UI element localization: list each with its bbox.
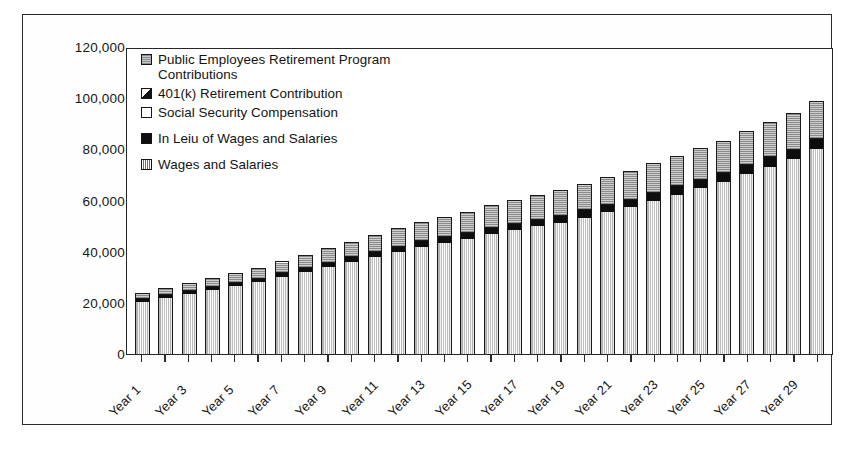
stacked-bar[interactable]: [763, 122, 778, 354]
x-axis-tick-label: Year 17: [479, 377, 521, 419]
stacked-bar[interactable]: [182, 283, 197, 354]
x-axis-tick: [293, 355, 316, 364]
y-axis-tick-label: 60,000: [47, 195, 125, 209]
bar-segment: [671, 195, 684, 354]
stacked-bar[interactable]: [414, 222, 429, 354]
bar-segment: [485, 206, 498, 227]
x-axis-tick-mark: [584, 355, 585, 362]
stacked-bar[interactable]: [716, 141, 731, 355]
bar-column[interactable]: [642, 49, 665, 354]
stacked-bar[interactable]: [600, 177, 615, 354]
y-axis-tick-label: 100,000: [47, 92, 125, 106]
bar-segment: [159, 298, 172, 354]
x-axis-tick-mark: [141, 355, 142, 362]
legend-item[interactable]: Wages and Salaries: [141, 157, 471, 172]
stacked-bar[interactable]: [646, 163, 661, 354]
bar-segment: [764, 123, 777, 157]
k401-diagonal-swatch: [141, 88, 152, 99]
bar-segment: [392, 229, 405, 246]
bar-column[interactable]: [526, 49, 549, 354]
bar-column[interactable]: [689, 49, 712, 354]
stacked-bar[interactable]: [809, 101, 824, 354]
legend-item[interactable]: Social Security Compensation: [141, 105, 471, 120]
stacked-bar[interactable]: [786, 113, 801, 354]
bar-segment: [810, 149, 823, 354]
y-axis-tick-label: 20,000: [47, 297, 125, 311]
bar-segment: [345, 243, 358, 258]
x-axis-tick-label: Year 13: [386, 377, 428, 419]
bar-column[interactable]: [665, 49, 688, 354]
stacked-bar[interactable]: [739, 131, 754, 354]
stacked-bar[interactable]: [368, 235, 383, 354]
x-axis-tick-mark: [351, 355, 352, 362]
bar-segment: [601, 178, 614, 205]
stacked-bar[interactable]: [460, 212, 475, 354]
stacked-bar[interactable]: [437, 217, 452, 354]
bar-column[interactable]: [549, 49, 572, 354]
x-axis-tick-mark: [723, 355, 724, 362]
stacked-bar[interactable]: [135, 293, 150, 354]
bar-segment: [601, 205, 614, 213]
x-axis-tick-mark: [397, 355, 398, 362]
x-axis-tick-mark: [817, 355, 818, 362]
bar-column[interactable]: [758, 49, 781, 354]
stacked-bar[interactable]: [205, 278, 220, 354]
bar-segment: [671, 157, 684, 187]
x-axis-tick: [340, 355, 363, 364]
x-axis-tick-label: Year 5: [199, 383, 235, 419]
bar-segment: [764, 157, 777, 166]
stacked-bar[interactable]: [344, 242, 359, 354]
x-axis-tick-label: Year 27: [712, 377, 754, 419]
stacked-bar[interactable]: [553, 190, 568, 354]
stacked-bar[interactable]: [321, 248, 336, 354]
x-axis-tick-label: Year 19: [526, 377, 568, 419]
x-axis-tick: [619, 355, 642, 364]
bar-column[interactable]: [596, 49, 619, 354]
bar-column[interactable]: [782, 49, 805, 354]
bar-segment: [299, 256, 312, 268]
bar-segment: [601, 212, 614, 354]
stacked-bar[interactable]: [228, 273, 243, 354]
stacked-bar[interactable]: [298, 255, 313, 354]
x-axis-tick-label: Year 9: [293, 383, 329, 419]
stacked-bar[interactable]: [507, 200, 522, 354]
bar-segment: [369, 236, 382, 252]
pers-gray-swatch: [141, 54, 152, 65]
bar-segment: [647, 164, 660, 193]
stacked-bar[interactable]: [158, 288, 173, 354]
bar-segment: [578, 210, 591, 217]
bar-segment: [392, 252, 405, 354]
legend-item[interactable]: In Leiu of Wages and Salaries: [141, 131, 471, 146]
stacked-bar[interactable]: [251, 268, 266, 354]
bar-segment: [276, 263, 289, 274]
stacked-bar[interactable]: [391, 228, 406, 354]
bar-column[interactable]: [619, 49, 642, 354]
x-axis-tick-mark: [607, 355, 608, 362]
legend-item[interactable]: Public Employees Retirement Program Cont…: [141, 52, 471, 82]
bar-column[interactable]: [805, 49, 828, 354]
bar-segment: [252, 269, 265, 279]
legend-item[interactable]: 401(k) Retirement Contribution: [141, 86, 471, 101]
bar-segment: [531, 196, 544, 219]
stacked-bar[interactable]: [275, 261, 290, 354]
bar-segment: [531, 226, 544, 354]
y-axis: 120,000100,00080,00060,00040,00020,0000: [47, 35, 125, 365]
x-axis-tick: [643, 355, 666, 364]
bar-column[interactable]: [572, 49, 595, 354]
stacked-bar[interactable]: [670, 156, 685, 354]
bar-segment: [810, 139, 823, 149]
stacked-bar[interactable]: [530, 195, 545, 354]
bar-column[interactable]: [480, 49, 503, 354]
x-axis-tick: [712, 355, 735, 364]
bar-column[interactable]: [735, 49, 758, 354]
stacked-bar[interactable]: [577, 184, 592, 354]
bar-column[interactable]: [503, 49, 526, 354]
bar-column[interactable]: [712, 49, 735, 354]
bar-segment: [229, 286, 242, 354]
bar-segment: [438, 218, 451, 237]
bar-segment: [578, 185, 591, 211]
stacked-bar[interactable]: [623, 171, 638, 354]
y-axis-tick-label: 0: [47, 348, 125, 362]
stacked-bar[interactable]: [484, 205, 499, 354]
stacked-bar[interactable]: [693, 148, 708, 354]
